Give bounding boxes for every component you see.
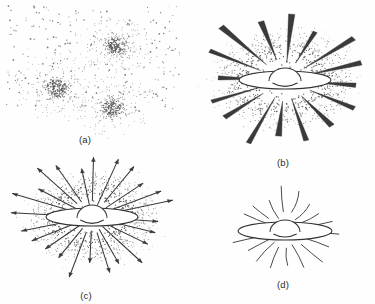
ray	[219, 25, 267, 65]
figure-four-panel: (a) (b) (c) (d)	[0, 0, 375, 304]
arrow-shaft	[69, 234, 85, 277]
ray	[281, 186, 283, 211]
arrow-shaft	[92, 158, 93, 201]
ray	[246, 97, 275, 143]
arrow-head	[11, 211, 16, 214]
panel-d	[196, 186, 375, 286]
arrow-head	[56, 166, 60, 170]
ray	[301, 96, 334, 128]
ray	[275, 101, 282, 136]
arrow-head	[115, 259, 119, 263]
arrow-head	[91, 158, 95, 162]
arrow-shaft	[106, 183, 143, 207]
arrow-head	[153, 220, 158, 223]
ray	[292, 245, 304, 267]
arrow-shaft	[97, 233, 110, 272]
ray	[286, 248, 288, 265]
panel-c	[0, 155, 195, 287]
ray	[269, 201, 278, 219]
arrow-head	[142, 241, 147, 245]
panel-d-caption: (d)	[277, 279, 289, 290]
panel-b	[190, 2, 375, 152]
ray	[305, 238, 329, 247]
arrow-head	[88, 258, 92, 262]
panel-c-caption: (c)	[80, 290, 92, 301]
ray	[287, 14, 295, 62]
ray	[292, 191, 299, 212]
arrow-shaft	[13, 194, 72, 211]
stipple-field	[6, 5, 180, 112]
panel-a-caption: (a)	[79, 134, 91, 145]
arrow-head	[150, 230, 155, 233]
arrow-head	[13, 193, 18, 196]
arrow-shaft	[82, 169, 90, 204]
panel-c-artwork	[0, 155, 195, 287]
galaxy-disc	[46, 205, 138, 226]
star-cluster-2	[16, 57, 99, 121]
arrow-head	[156, 191, 161, 194]
arrow-head	[106, 268, 110, 272]
ray	[304, 36, 356, 68]
ray	[300, 214, 319, 224]
arrow-head	[39, 189, 44, 193]
arrow-head	[129, 167, 133, 171]
ray	[310, 90, 356, 110]
panel-d-artwork	[196, 186, 375, 286]
galaxy-disc	[238, 220, 332, 240]
star-cluster-1	[86, 17, 149, 75]
panel-b-artwork	[190, 2, 375, 152]
arrow-head	[22, 228, 27, 231]
ray	[270, 247, 278, 267]
arrow-head	[167, 200, 172, 203]
panel-a	[0, 2, 188, 130]
ray	[295, 204, 309, 219]
ray	[301, 245, 322, 263]
panel-b-caption: (b)	[277, 157, 289, 168]
ray	[253, 206, 268, 218]
arrow-head	[32, 238, 37, 241]
star-cluster-3	[77, 77, 149, 138]
arrow-head	[115, 160, 119, 164]
panel-a-artwork	[0, 2, 188, 130]
arrow-head	[59, 253, 63, 257]
arrow-head	[69, 273, 73, 277]
arrow-head	[81, 169, 85, 173]
